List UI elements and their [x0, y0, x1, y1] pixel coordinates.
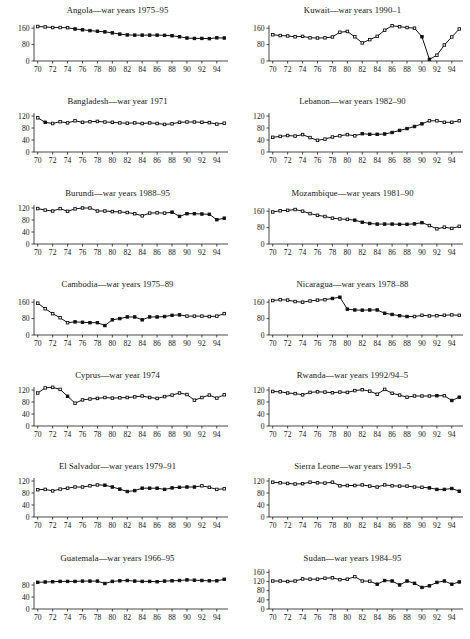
- data-point-war-year: [74, 580, 77, 583]
- y-tick-label: 160: [253, 24, 265, 33]
- data-point-peace-year: [301, 209, 304, 212]
- x-tick-label: 94: [213, 248, 221, 257]
- y-tick-label: 160: [253, 298, 265, 307]
- y-tick-label: 40: [22, 501, 30, 510]
- x-tick-label: 82: [358, 521, 366, 530]
- data-point-peace-year: [279, 298, 282, 301]
- x-tick-label: 86: [388, 430, 396, 439]
- data-point-war-year: [354, 219, 357, 222]
- data-point-peace-year: [66, 27, 69, 30]
- x-tick-label: 70: [269, 613, 277, 622]
- data-point-peace-year: [421, 486, 424, 489]
- data-point-peace-year: [428, 120, 431, 123]
- data-point-peace-year: [271, 210, 274, 213]
- x-tick-label: 90: [183, 430, 191, 439]
- x-tick-label: 88: [403, 613, 411, 622]
- data-point-peace-year: [223, 122, 226, 125]
- y-tick-label: 120: [253, 112, 265, 121]
- data-point-peace-year: [368, 38, 371, 41]
- data-point-war-year: [383, 312, 386, 315]
- chart-panel: Angola—war years 1975–950801607072747678…: [0, 0, 235, 91]
- data-point-peace-year: [133, 122, 136, 125]
- series-line: [38, 387, 225, 403]
- data-point-peace-year: [74, 486, 77, 489]
- y-tick-label: 80: [257, 223, 265, 232]
- x-tick-label: 90: [418, 65, 426, 74]
- y-tick-label: 0: [26, 239, 30, 248]
- y-tick-label: 80: [257, 40, 265, 49]
- x-tick-label: 70: [34, 613, 42, 622]
- data-point-peace-year: [36, 392, 39, 395]
- data-point-peace-year: [316, 578, 319, 581]
- data-point-peace-year: [44, 387, 47, 390]
- data-point-peace-year: [458, 28, 461, 31]
- data-point-war-year: [451, 488, 454, 491]
- data-point-peace-year: [391, 392, 394, 395]
- data-point-war-year: [193, 212, 196, 215]
- y-tick-label: 160: [18, 24, 30, 33]
- x-tick-label: 94: [448, 521, 456, 530]
- data-point-war-year: [361, 133, 364, 136]
- x-tick-label: 74: [299, 521, 307, 530]
- data-point-peace-year: [216, 397, 219, 400]
- data-point-war-year: [89, 321, 92, 324]
- data-point-peace-year: [301, 35, 304, 38]
- x-tick-label: 84: [373, 613, 381, 622]
- data-point-peace-year: [331, 136, 334, 139]
- x-tick-label: 86: [153, 65, 161, 74]
- x-tick-label: 84: [373, 156, 381, 165]
- x-tick-label: 80: [344, 156, 352, 165]
- x-tick-label: 76: [314, 156, 322, 165]
- data-point-peace-year: [59, 488, 62, 491]
- x-tick-label: 94: [213, 613, 221, 622]
- data-point-war-year: [89, 580, 92, 583]
- x-tick-label: 86: [153, 339, 161, 348]
- chart-plot-area: 0408012070727476788082848688909294: [235, 365, 470, 458]
- data-point-peace-year: [208, 315, 211, 318]
- data-point-war-year: [133, 316, 136, 319]
- data-point-war-year: [421, 36, 424, 39]
- data-point-war-year: [451, 583, 454, 586]
- x-tick-label: 88: [403, 339, 411, 348]
- data-point-peace-year: [443, 395, 446, 398]
- data-point-war-year: [208, 579, 211, 582]
- data-point-peace-year: [294, 208, 297, 211]
- data-point-war-year: [193, 579, 196, 582]
- data-point-war-year: [163, 580, 166, 583]
- data-point-war-year: [44, 580, 47, 583]
- data-point-peace-year: [279, 209, 282, 212]
- data-point-war-year: [428, 58, 431, 61]
- data-point-war-year: [51, 580, 54, 583]
- data-point-war-year: [171, 35, 174, 38]
- data-point-peace-year: [208, 486, 211, 489]
- data-point-war-year: [361, 309, 364, 312]
- data-point-peace-year: [66, 487, 69, 490]
- data-point-war-year: [171, 487, 174, 490]
- data-point-peace-year: [36, 489, 39, 492]
- chart-panel: Burundi—war years 1988–95040801207072747…: [0, 183, 235, 274]
- chart-plot-area: 0408012070727476788082848688909294: [235, 456, 470, 549]
- y-tick-label: 40: [22, 136, 30, 145]
- data-point-peace-year: [216, 489, 219, 492]
- y-tick-label: 120: [253, 386, 265, 395]
- x-tick-label: 78: [94, 65, 102, 74]
- x-tick-label: 94: [213, 65, 221, 74]
- x-tick-label: 78: [329, 521, 337, 530]
- data-point-peace-year: [104, 209, 107, 212]
- x-tick-label: 74: [299, 613, 307, 622]
- x-tick-label: 74: [64, 248, 72, 257]
- data-point-peace-year: [271, 136, 274, 139]
- data-point-peace-year: [398, 485, 401, 488]
- data-point-peace-year: [309, 391, 312, 394]
- x-tick-label: 88: [168, 248, 176, 257]
- x-tick-label: 90: [183, 521, 191, 530]
- data-point-peace-year: [458, 120, 461, 123]
- data-point-peace-year: [51, 490, 54, 493]
- data-point-peace-year: [428, 395, 431, 398]
- data-point-war-year: [163, 34, 166, 37]
- data-point-war-year: [398, 583, 401, 586]
- data-point-peace-year: [309, 137, 312, 140]
- series-line: [38, 303, 225, 325]
- data-point-peace-year: [286, 135, 289, 138]
- data-point-war-year: [398, 129, 401, 132]
